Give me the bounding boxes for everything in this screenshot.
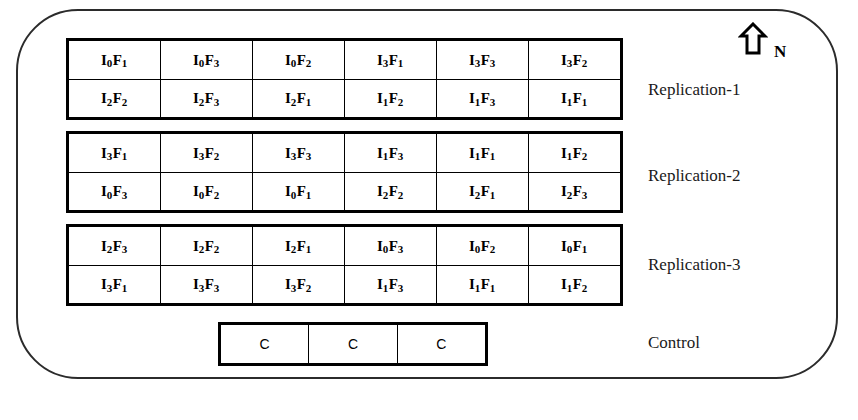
north-label: N <box>774 43 786 60</box>
plot-cell: I3F2 <box>161 134 253 172</box>
plot-cell: I3F3 <box>161 266 253 303</box>
plot-cell: I3F1 <box>69 134 161 172</box>
north-indicator: N <box>738 22 808 66</box>
control-cell: C <box>398 325 485 363</box>
plot-cell: I2F1 <box>253 80 345 117</box>
plot-cell: I2F3 <box>161 80 253 117</box>
plot-cell: I0F1 <box>69 41 161 79</box>
plot-cell: I0F2 <box>161 173 253 210</box>
plot-cell: I0F2 <box>253 41 345 79</box>
plot-cell: I2F2 <box>69 80 161 117</box>
replication-1-label: Replication-1 <box>648 81 741 98</box>
plot-cell: I2F1 <box>253 227 345 265</box>
plot-cell: I3F2 <box>529 41 620 79</box>
plot-cell: I2F3 <box>529 173 620 210</box>
plot-cell: I3F2 <box>253 266 345 303</box>
replication-2-label: Replication-2 <box>648 167 741 184</box>
plot-cell: I1F3 <box>345 134 437 172</box>
plot-cell: I3F1 <box>69 266 161 303</box>
replication-block-2: I3F1 I3F2 I3F3 I1F3 I1F1 I1F2 I0F3 I0F2 … <box>66 131 623 213</box>
control-label: Control <box>648 334 700 351</box>
control-block: C C C <box>218 322 488 366</box>
plot-cell: I0F3 <box>345 227 437 265</box>
plot-cell: I0F2 <box>437 227 529 265</box>
plot-cell: I0F1 <box>253 173 345 210</box>
plot-cell: I2F2 <box>345 173 437 210</box>
plot-cell: I2F2 <box>161 227 253 265</box>
control-cell: C <box>309 325 397 363</box>
plot-cell: I3F1 <box>345 41 437 79</box>
plot-cell: I1F1 <box>437 266 529 303</box>
plot-cell: I1F2 <box>345 80 437 117</box>
plot-cell: I1F3 <box>345 266 437 303</box>
plot-cell: I3F3 <box>437 41 529 79</box>
plot-cell: I1F1 <box>529 80 620 117</box>
plot-cell: I1F1 <box>437 134 529 172</box>
plot-cell: I0F3 <box>69 173 161 210</box>
plot-cell: I0F1 <box>529 227 620 265</box>
plot-cell: I1F3 <box>437 80 529 117</box>
plot-cell: I1F2 <box>529 134 620 172</box>
plot-row: I0F3 I0F2 I0F1 I2F2 I2F1 I2F3 <box>69 172 620 210</box>
plot-cell: I2F1 <box>437 173 529 210</box>
plot-row: I3F1 I3F3 I3F2 I1F3 I1F1 I1F2 <box>69 265 620 303</box>
plot-cell: I3F3 <box>253 134 345 172</box>
plot-row: I2F3 I2F2 I2F1 I0F3 I0F2 I0F1 <box>69 227 620 265</box>
replication-block-3: I2F3 I2F2 I2F1 I0F3 I0F2 I0F1 I3F1 I3F3 … <box>66 224 623 306</box>
plot-cell: I2F3 <box>69 227 161 265</box>
plot-cell: I0F3 <box>161 41 253 79</box>
replication-3-label: Replication-3 <box>648 256 741 273</box>
replication-block-1: I0F1 I0F3 I0F2 I3F1 I3F3 I3F2 I2F2 I2F3 … <box>66 38 623 120</box>
field-layout-diagram: N I0F1 I0F3 I0F2 I3F1 I3F3 I3F2 I2F2 I2F… <box>0 0 858 420</box>
plot-row: I3F1 I3F2 I3F3 I1F3 I1F1 I1F2 <box>69 134 620 172</box>
plot-cell: I1F2 <box>529 266 620 303</box>
plot-row: I2F2 I2F3 I2F1 I1F2 I1F3 I1F1 <box>69 79 620 117</box>
control-cell: C <box>221 325 309 363</box>
north-arrow-icon <box>738 22 768 56</box>
plot-row: I0F1 I0F3 I0F2 I3F1 I3F3 I3F2 <box>69 41 620 79</box>
